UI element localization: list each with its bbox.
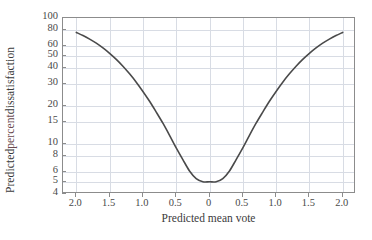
y-tick-label: 4: [18, 186, 58, 197]
y-tick-label: 40: [18, 60, 58, 71]
y-tick-mark: [62, 55, 66, 56]
y-tick-label: 30: [18, 76, 58, 87]
y-tick-mark: [62, 193, 66, 194]
y-tick-label: 5: [18, 174, 58, 185]
plot-area: [62, 17, 355, 193]
y-tick-mark: [62, 29, 66, 30]
y-tick-mark: [62, 83, 66, 84]
y-tick-label: 15: [18, 114, 58, 125]
y-tick-mark: [62, 17, 66, 18]
x-tick-label: 2.0: [322, 197, 362, 208]
y-tick-mark: [62, 121, 66, 122]
ppd-curve: [63, 18, 356, 194]
y-axis-title-suffix: dissatisfaction: [4, 47, 16, 114]
y-tick-mark: [62, 45, 66, 46]
y-tick-mark: [62, 67, 66, 68]
y-tick-mark: [62, 105, 66, 106]
ppd-curve-path: [76, 32, 342, 182]
y-axis-title-prefix: Predicted: [4, 149, 16, 193]
y-tick-mark: [62, 171, 66, 172]
y-tick-label: 8: [18, 148, 58, 159]
y-tick-label: 10: [18, 136, 58, 147]
y-tick-mark: [62, 143, 66, 144]
y-axis-title: Predicted percent dissatisfaction: [0, 0, 20, 240]
y-tick-label: 20: [18, 98, 58, 109]
y-tick-mark: [62, 155, 66, 156]
y-tick-label: 100: [18, 10, 58, 21]
y-tick-mark: [62, 181, 66, 182]
y-axis-title-tint: percent: [4, 114, 16, 149]
y-tick-label: 50: [18, 48, 58, 59]
x-axis-title: Predicted mean vote: [62, 212, 355, 224]
y-tick-label: 80: [18, 22, 58, 33]
chart-figure: Predicted percent dissatisfaction 100806…: [0, 0, 372, 240]
